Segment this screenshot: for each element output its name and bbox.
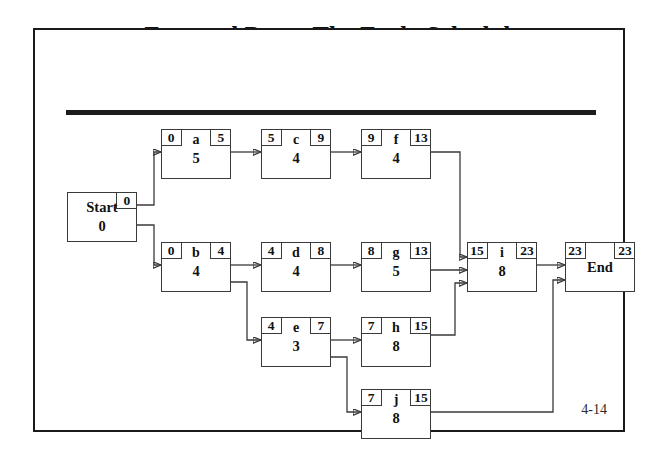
node-g-duration: 5 xyxy=(362,262,430,280)
network-diagram: 0 5 a 5 5 9 c 4 9 13 f 4 0 Start 0 xyxy=(35,30,627,434)
node-d[interactable]: 4 8 d 4 xyxy=(261,242,331,292)
node-h-duration: 8 xyxy=(362,337,430,355)
edge-h-i xyxy=(431,283,467,335)
node-d-label: d xyxy=(262,243,330,261)
node-start-label: Start xyxy=(68,198,136,216)
node-j[interactable]: 7 15 j 8 xyxy=(361,389,431,439)
node-b-label: b xyxy=(162,243,230,261)
node-b-duration: 4 xyxy=(162,262,230,280)
node-end-label: End xyxy=(566,258,634,276)
node-a-label: a xyxy=(162,130,230,148)
edge-j-end xyxy=(431,280,565,412)
node-end-early-finish: 23 xyxy=(614,242,635,259)
node-c[interactable]: 5 9 c 4 xyxy=(261,129,331,179)
slide-frame: 0 5 a 5 5 9 c 4 9 13 f 4 0 Start 0 xyxy=(33,28,625,432)
node-j-label: j xyxy=(362,390,430,408)
node-g-label: g xyxy=(362,243,430,261)
node-g[interactable]: 8 13 g 5 xyxy=(361,242,431,292)
node-f[interactable]: 9 13 f 4 xyxy=(361,129,431,179)
edge-e-j xyxy=(331,357,361,412)
node-start-duration: 0 xyxy=(68,217,136,235)
edge-start-b xyxy=(137,225,161,265)
node-i-label: i xyxy=(468,243,536,261)
node-e-duration: 3 xyxy=(262,337,330,355)
node-end[interactable]: 23 23 End xyxy=(565,242,635,292)
slide: Forward Pass: The Early Schedule xyxy=(0,0,666,453)
node-j-duration: 8 xyxy=(362,409,430,427)
node-i-duration: 8 xyxy=(468,262,536,280)
node-c-duration: 4 xyxy=(262,149,330,167)
edge-b-e xyxy=(231,282,261,340)
edge-start-a xyxy=(137,152,161,205)
node-e-label: e xyxy=(262,318,330,336)
edge-f-i xyxy=(431,152,467,257)
node-d-duration: 4 xyxy=(262,262,330,280)
node-b[interactable]: 0 4 b 4 xyxy=(161,242,231,292)
node-h-label: h xyxy=(362,318,430,336)
node-h[interactable]: 7 15 h 8 xyxy=(361,317,431,367)
node-i[interactable]: 15 23 i 8 xyxy=(467,242,537,292)
node-start[interactable]: 0 Start 0 xyxy=(67,192,137,242)
node-end-early-start: 23 xyxy=(565,242,586,259)
node-e[interactable]: 4 7 e 3 xyxy=(261,317,331,367)
node-a[interactable]: 0 5 a 5 xyxy=(161,129,231,179)
node-f-duration: 4 xyxy=(362,149,430,167)
node-c-label: c xyxy=(262,130,330,148)
node-a-duration: 5 xyxy=(162,149,230,167)
node-f-label: f xyxy=(362,130,430,148)
